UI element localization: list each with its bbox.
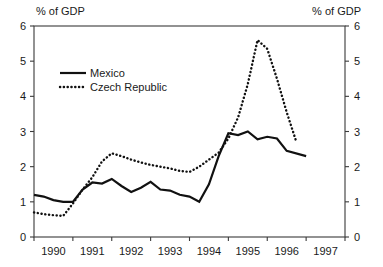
svg-text:1990: 1990 [41,245,65,257]
svg-text:1993: 1993 [158,245,182,257]
plot-frame [34,26,345,237]
svg-text:3: 3 [20,126,26,138]
svg-text:1996: 1996 [274,245,298,257]
svg-text:4: 4 [354,90,360,102]
chart-legend: MexicoCzech Republic [60,67,168,93]
chart-plot: 0123456 0123456 199019911992199319941995… [0,0,383,267]
svg-text:1995: 1995 [236,245,260,257]
axis-tick-marks [30,26,349,241]
x-axis-tick-labels: 19901991199219931994199519961997 [41,245,338,257]
svg-text:6: 6 [20,20,26,32]
svg-text:5: 5 [20,55,26,67]
svg-text:3: 3 [354,126,360,138]
legend-label-0: Mexico [90,67,125,79]
svg-text:0: 0 [354,231,360,243]
svg-text:1: 1 [20,196,26,208]
svg-text:1992: 1992 [119,245,143,257]
legend-label-1: Czech Republic [90,81,168,93]
data-series-group [34,40,306,216]
y-axis-tick-labels: 0123456 [20,20,26,243]
svg-text:0: 0 [20,231,26,243]
svg-text:1: 1 [354,196,360,208]
svg-text:6: 6 [354,20,360,32]
svg-text:2: 2 [20,161,26,173]
svg-text:4: 4 [20,90,26,102]
chart-container: % of GDP % of GDP 0123456 0123456 199019… [0,0,383,267]
series-line-mexico [34,132,306,202]
svg-text:1994: 1994 [197,245,221,257]
y2-axis-tick-labels: 0123456 [354,20,360,243]
svg-text:1991: 1991 [80,245,104,257]
svg-text:2: 2 [354,161,360,173]
svg-text:5: 5 [354,55,360,67]
svg-text:1997: 1997 [313,245,337,257]
